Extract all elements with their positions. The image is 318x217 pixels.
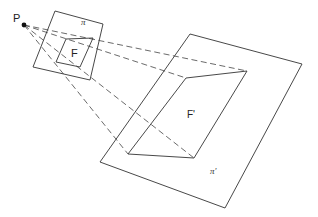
plane-pi: [33, 11, 103, 80]
point-p: [22, 23, 27, 28]
label-pi-prime: π': [210, 166, 218, 176]
projection-diagram: P π F F' π': [0, 0, 318, 217]
label-f-prime: F': [187, 109, 195, 120]
projection-rays: [24, 25, 247, 158]
label-f: F: [71, 47, 78, 59]
plane-pi-prime: [100, 34, 302, 208]
label-pi: π: [81, 17, 86, 27]
label-p: P: [13, 12, 20, 24]
